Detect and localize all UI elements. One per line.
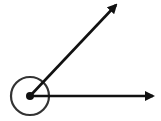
upper-ray-arrow (30, 5, 116, 96)
vertex-dot (26, 92, 34, 100)
angle-diagram (0, 0, 161, 121)
